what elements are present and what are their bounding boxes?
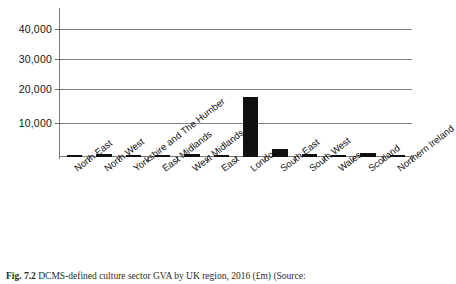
y-tick-label-40000: 40,000: [19, 23, 52, 35]
y-tick-label-20000: 20,000: [19, 83, 52, 95]
figure-caption: Fig. 7.2 DCMS-defined culture sector GVA…: [6, 271, 422, 281]
caption-figure-number: Fig. 7.2: [6, 271, 36, 281]
caption-text: DCMS-defined culture sector GVA by UK re…: [38, 271, 305, 281]
bar: [243, 97, 258, 157]
y-tick-label-10000: 10,000: [19, 117, 52, 129]
bar: [67, 155, 82, 157]
y-tick-label-30000: 30,000: [19, 53, 52, 65]
